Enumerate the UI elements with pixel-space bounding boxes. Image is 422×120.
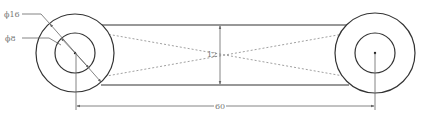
length-dimension [76,53,375,110]
technical-drawing: ϕ16 ϕ8 12 60 [0,0,422,120]
inner-diameter-label: ϕ8 [5,34,16,43]
outer-diameter-label: ϕ16 [4,10,20,19]
hidden-lines [101,33,349,77]
height-label: 12 [207,50,217,59]
length-label: 60 [215,102,225,111]
